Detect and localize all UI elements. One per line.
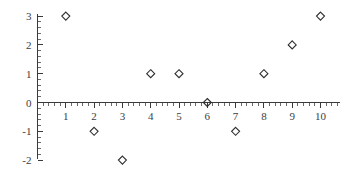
x-tick-label: 4 <box>148 110 154 122</box>
y-axis-tick-labels: -2-10123 <box>22 10 32 166</box>
x-tick-label: 5 <box>176 110 182 122</box>
x-tick-label: 10 <box>315 110 327 122</box>
x-tick-label: 6 <box>205 110 211 122</box>
x-tick-label: 3 <box>120 110 126 122</box>
y-tick-label: 1 <box>26 68 32 80</box>
y-axis-group: -2-10123 <box>22 10 42 166</box>
y-tick-label: 3 <box>26 10 32 22</box>
x-tick-label: 2 <box>91 110 97 122</box>
data-point-marker <box>62 12 70 20</box>
y-axis-major-ticks <box>38 16 43 160</box>
x-axis-group: 12345678910 <box>37 103 340 122</box>
scatter-plot: -2-10123 12345678910 <box>0 0 351 177</box>
data-point-marker <box>175 70 183 78</box>
x-tick-label: 1 <box>63 110 69 122</box>
data-point-marker <box>232 127 240 135</box>
x-tick-label: 9 <box>289 110 295 122</box>
y-tick-label: 0 <box>26 97 32 109</box>
x-tick-label: 8 <box>261 110 267 122</box>
data-point-marker <box>288 41 296 49</box>
data-point-marker <box>260 70 268 78</box>
data-point-marker <box>90 127 98 135</box>
data-point-marker <box>317 12 325 20</box>
x-axis-major-ticks <box>66 103 321 108</box>
data-point-marker <box>147 70 155 78</box>
x-axis-tick-labels: 12345678910 <box>63 110 326 122</box>
x-tick-label: 7 <box>233 110 239 122</box>
plot-canvas: -2-10123 12345678910 <box>0 0 351 177</box>
y-tick-label: 2 <box>26 39 32 51</box>
y-tick-label: -1 <box>22 125 31 137</box>
data-point-series <box>62 12 325 164</box>
y-tick-label: -2 <box>22 154 31 166</box>
data-point-marker <box>118 156 126 164</box>
